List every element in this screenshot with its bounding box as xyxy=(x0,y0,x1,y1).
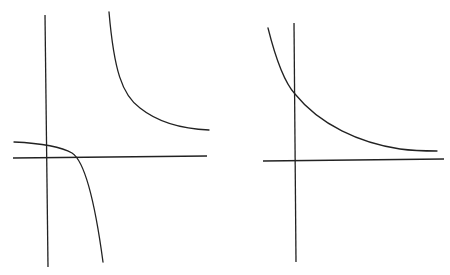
left-x-axis xyxy=(13,156,207,158)
right-y-axis xyxy=(294,23,296,262)
right-x-axis xyxy=(263,159,444,161)
left-lower-branch-curve xyxy=(14,142,103,262)
left-y-axis xyxy=(45,15,48,267)
left-graph xyxy=(13,12,209,267)
right-decay-curve xyxy=(268,28,437,151)
graphs-canvas xyxy=(0,0,450,275)
right-graph xyxy=(263,23,444,262)
left-upper-branch-curve xyxy=(109,12,209,130)
